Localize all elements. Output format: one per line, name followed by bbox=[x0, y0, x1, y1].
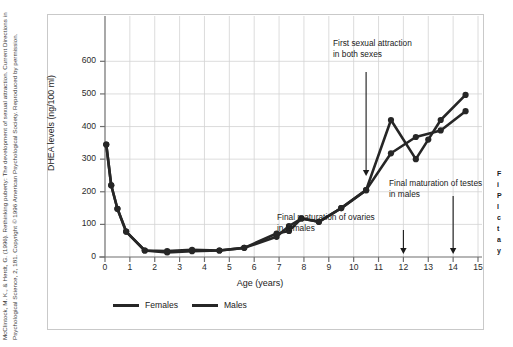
y-axis-title: DHEA levels (ng/100 ml) bbox=[46, 48, 56, 198]
side-caption-clipped: FiPlctay bbox=[497, 168, 513, 288]
side-caption-line-0: F bbox=[497, 168, 513, 179]
y-tick-label-100: 100 bbox=[62, 218, 96, 228]
x-tick-label-4: 4 bbox=[195, 262, 213, 272]
x-tick-label-3: 3 bbox=[171, 262, 189, 272]
dhea-figure: McClintock, M. K., & Herdt, G. (1996). R… bbox=[0, 0, 513, 347]
annotation-final-maturation-ovaries: Final maturation of ovaries in females bbox=[277, 212, 381, 233]
x-tick-label-2: 2 bbox=[146, 262, 164, 272]
legend-swatch-males bbox=[192, 304, 218, 307]
x-tick-label-14: 14 bbox=[444, 262, 462, 272]
side-caption-line-2: P bbox=[497, 190, 513, 201]
side-caption-line-1: i bbox=[497, 179, 513, 190]
y-tick-label-400: 400 bbox=[62, 121, 96, 131]
x-tick-label-9: 9 bbox=[320, 262, 338, 272]
x-tick-label-1: 1 bbox=[121, 262, 139, 272]
side-caption-line-4: c bbox=[497, 212, 513, 223]
x-tick-label-0: 0 bbox=[96, 262, 114, 272]
legend-swatch-females bbox=[113, 304, 139, 307]
y-tick-label-200: 200 bbox=[62, 186, 96, 196]
chart-legend: Females Males bbox=[113, 300, 247, 310]
figure-credit-container: McClintock, M. K., & Herdt, G. (1996). R… bbox=[0, 0, 46, 347]
side-caption-line-3: l bbox=[497, 201, 513, 212]
x-tick-label-12: 12 bbox=[394, 262, 412, 272]
x-tick-label-7: 7 bbox=[270, 262, 288, 272]
x-tick-label-5: 5 bbox=[220, 262, 238, 272]
x-tick-label-15: 15 bbox=[469, 262, 487, 272]
x-tick-label-11: 11 bbox=[370, 262, 388, 272]
x-tick-label-8: 8 bbox=[295, 262, 313, 272]
figure-credit-text: McClintock, M. K., & Herdt, G. (1996). R… bbox=[0, 10, 19, 340]
x-tick-label-10: 10 bbox=[345, 262, 363, 272]
x-tick-label-13: 13 bbox=[419, 262, 437, 272]
y-tick-label-0: 0 bbox=[62, 251, 96, 261]
x-axis-title: Age (years) bbox=[180, 278, 340, 288]
side-caption-line-7: y bbox=[497, 245, 513, 256]
annotation-final-maturation-testes: Final maturation of testes in males bbox=[389, 178, 489, 199]
legend-label-females: Females bbox=[145, 300, 178, 310]
legend-item-males: Males bbox=[192, 300, 247, 310]
y-tick-label-300: 300 bbox=[62, 153, 96, 163]
y-tick-label-600: 600 bbox=[62, 55, 96, 65]
side-caption-line-6: a bbox=[497, 234, 513, 245]
legend-label-males: Males bbox=[224, 300, 247, 310]
annotation-first-sexual-attraction: First sexual attraction in both sexes bbox=[333, 38, 419, 59]
y-tick-label-500: 500 bbox=[62, 88, 96, 98]
legend-item-females: Females bbox=[113, 300, 178, 310]
side-caption-line-5: t bbox=[497, 223, 513, 234]
x-tick-label-6: 6 bbox=[245, 262, 263, 272]
